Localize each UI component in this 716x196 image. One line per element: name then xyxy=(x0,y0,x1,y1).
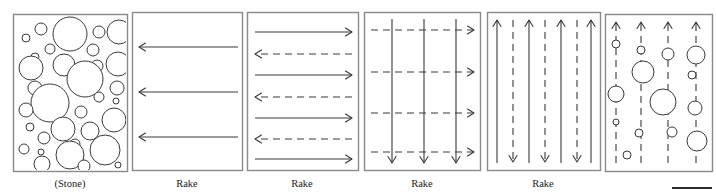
figure-canvas: (Stone)RakeRakeRakeRake xyxy=(0,0,716,196)
stone-circle xyxy=(53,17,87,51)
panel-rake-with-stones xyxy=(606,15,713,172)
stone-circle xyxy=(667,127,677,137)
panel-rake-horizontal-left xyxy=(133,13,243,171)
rake-pattern-figure: (Stone)RakeRakeRakeRake xyxy=(0,0,716,196)
stone-circle xyxy=(612,40,620,48)
panel-rake-crosshatch xyxy=(365,13,481,171)
stone-circle xyxy=(31,84,69,122)
stone-circle xyxy=(19,144,29,154)
stone-circle xyxy=(22,34,30,42)
stone-circle xyxy=(623,151,631,159)
panel-border xyxy=(365,13,481,171)
stone-circle xyxy=(113,98,119,104)
stone-circle xyxy=(35,23,47,35)
panel-label-rake-vertical-alternating: Rake xyxy=(532,178,554,189)
stone-circle xyxy=(650,89,676,115)
panel-stone xyxy=(14,15,132,173)
panel-rake-vertical-alternating xyxy=(488,13,601,171)
stone-circle xyxy=(110,81,124,95)
panel-label-stone: (Stone) xyxy=(55,178,86,190)
stone-circle xyxy=(613,119,619,125)
stone-circle xyxy=(19,56,43,80)
stone-circle xyxy=(26,123,34,131)
panel-rake-horizontal-alternating xyxy=(248,13,359,171)
stone-circle xyxy=(38,132,50,144)
panel-border xyxy=(488,13,601,171)
stone-circle xyxy=(688,71,696,79)
stone-circle xyxy=(93,26,105,38)
stone-circle xyxy=(687,46,705,64)
scale-bar xyxy=(672,187,712,189)
stone-circle xyxy=(90,135,120,165)
stone-circle xyxy=(688,101,702,115)
panel-label-rake-horizontal-alternating: Rake xyxy=(291,178,313,189)
stone-circle xyxy=(87,44,99,56)
stone-circle xyxy=(34,156,50,172)
stone-circle xyxy=(632,61,654,83)
stone-circle xyxy=(19,103,33,117)
stone-circle xyxy=(637,46,645,54)
stone-circle xyxy=(687,131,707,151)
panel-border xyxy=(248,13,359,171)
stone-circle xyxy=(67,61,103,97)
stone-circle xyxy=(94,92,104,102)
stone-circle xyxy=(662,48,674,60)
stone-circle xyxy=(102,108,126,132)
stone-circle xyxy=(51,117,75,141)
stone-circle xyxy=(608,86,624,102)
stone-circle xyxy=(45,44,55,54)
stone-circle xyxy=(635,129,643,137)
stone-circle xyxy=(115,162,121,168)
stone-circle xyxy=(38,149,44,155)
panel-label-rake-horizontal-left: Rake xyxy=(176,178,198,189)
stone-circle xyxy=(75,106,87,118)
panel-label-rake-crosshatch: Rake xyxy=(411,178,433,189)
